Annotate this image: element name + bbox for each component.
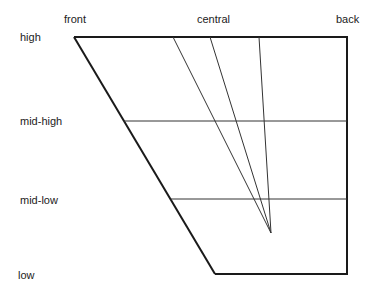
converging-line-1 [173,37,271,233]
inner-lines [124,37,347,233]
front-diagonal-edge [74,37,215,274]
trapezoid-diagram [0,0,372,293]
converging-line-2 [210,37,271,233]
converging-line-3 [259,37,271,233]
trapezoid-outline [74,37,348,275]
